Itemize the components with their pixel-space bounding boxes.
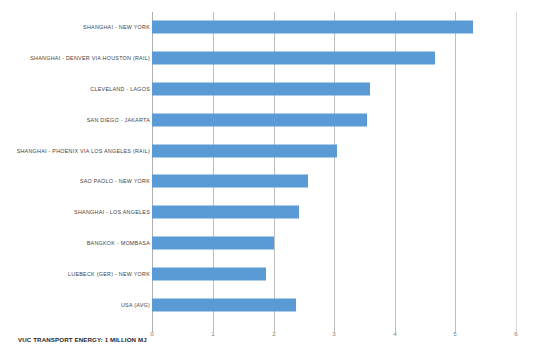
bar-row: SHANGHAI - NEW YORK bbox=[0, 12, 533, 43]
bar-row: SHANGHAI - DENVER VIA HOUSTON (RAIL) bbox=[0, 43, 533, 74]
x-tick-label: 1 bbox=[211, 330, 214, 337]
x-tick-label: 6 bbox=[514, 330, 517, 337]
x-tick-label: 4 bbox=[393, 330, 396, 337]
x-tick-label: 5 bbox=[453, 330, 456, 337]
bar-chart: SHANGHAI - NEW YORK SHANGHAI - DENVER VI… bbox=[0, 0, 533, 357]
bar-row: SAO PAOLO - NEW YORK bbox=[0, 166, 533, 197]
category-label: SAN DIEGO - JAKARTA bbox=[87, 117, 150, 123]
bar bbox=[152, 175, 308, 188]
bar-rows: SHANGHAI - NEW YORK SHANGHAI - DENVER VI… bbox=[0, 12, 533, 320]
bar bbox=[152, 52, 435, 65]
bar-row: CLEVELAND - LAGOS bbox=[0, 74, 533, 105]
category-label: SHANGHAI - DENVER VIA HOUSTON (RAIL) bbox=[30, 55, 150, 61]
bar bbox=[152, 206, 299, 219]
bar-row: SAN DIEGO - JAKARTA bbox=[0, 104, 533, 135]
category-label: CLEVELAND - LAGOS bbox=[90, 86, 150, 92]
bar-row: BANGKOK - MOMBASA bbox=[0, 228, 533, 259]
bar-row: USA (AVG) bbox=[0, 289, 533, 320]
category-label: USA (AVG) bbox=[121, 302, 150, 308]
bar-row: SHANGHAI - PHOENIX VIA LOS ANGELES (RAIL… bbox=[0, 135, 533, 166]
category-label: SHANGHAI - NEW YORK bbox=[83, 24, 150, 30]
category-label: SHANGHAI - PHOENIX VIA LOS ANGELES (RAIL… bbox=[17, 148, 150, 154]
x-tick-label: 2 bbox=[272, 330, 275, 337]
bar-row: SHANGHAI - LOS ANGELES bbox=[0, 197, 533, 228]
category-label: SAO PAOLO - NEW YORK bbox=[80, 178, 150, 184]
bar bbox=[152, 267, 266, 280]
bar bbox=[152, 113, 367, 126]
x-tick-label: 3 bbox=[332, 330, 335, 337]
category-label: SHANGHAI - LOS ANGELES bbox=[74, 209, 150, 215]
bar bbox=[152, 236, 274, 249]
bar bbox=[152, 298, 296, 311]
bar-row: LUEBECK (GER) - NEW YORK bbox=[0, 258, 533, 289]
category-label: BANGKOK - MOMBASA bbox=[87, 240, 150, 246]
x-tick-label: 0 bbox=[150, 330, 153, 337]
bar bbox=[152, 21, 473, 34]
bar bbox=[152, 144, 337, 157]
bar bbox=[152, 82, 370, 95]
x-axis-title: VUC TRANSPORT ENERGY: 1 MILLION MJ bbox=[18, 336, 147, 343]
category-label: LUEBECK (GER) - NEW YORK bbox=[68, 271, 150, 277]
